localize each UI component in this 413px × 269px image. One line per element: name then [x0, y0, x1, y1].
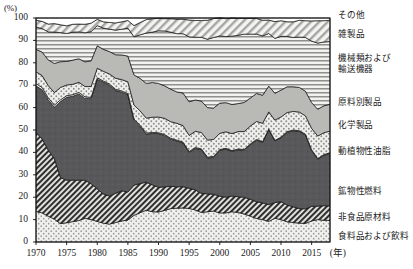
stacked-area-plot [0, 0, 413, 269]
chart-root: (%) 0102030405060708090100 1970197519801… [0, 0, 413, 269]
legend-label-food_beverages: 食料品および飲料 [338, 231, 408, 242]
legend-label-chemicals: 化学製品 [338, 120, 373, 131]
legend-label-crude_materials: 非食品原材料 [338, 212, 391, 223]
legend-label-other: その他 [338, 10, 364, 21]
legend-label-animal_vegetable_oils: 動植物性油脂 [338, 146, 391, 157]
legend-label-mineral_fuels: 鉱物性燃料 [338, 186, 382, 197]
legend-label-misc_manufactures: 雑製品 [338, 29, 364, 40]
legend-label-machinery_transport: 機械類および 輸送機器 [338, 53, 391, 74]
legend-label-manufactured_by_material: 原料別製品 [338, 97, 382, 108]
